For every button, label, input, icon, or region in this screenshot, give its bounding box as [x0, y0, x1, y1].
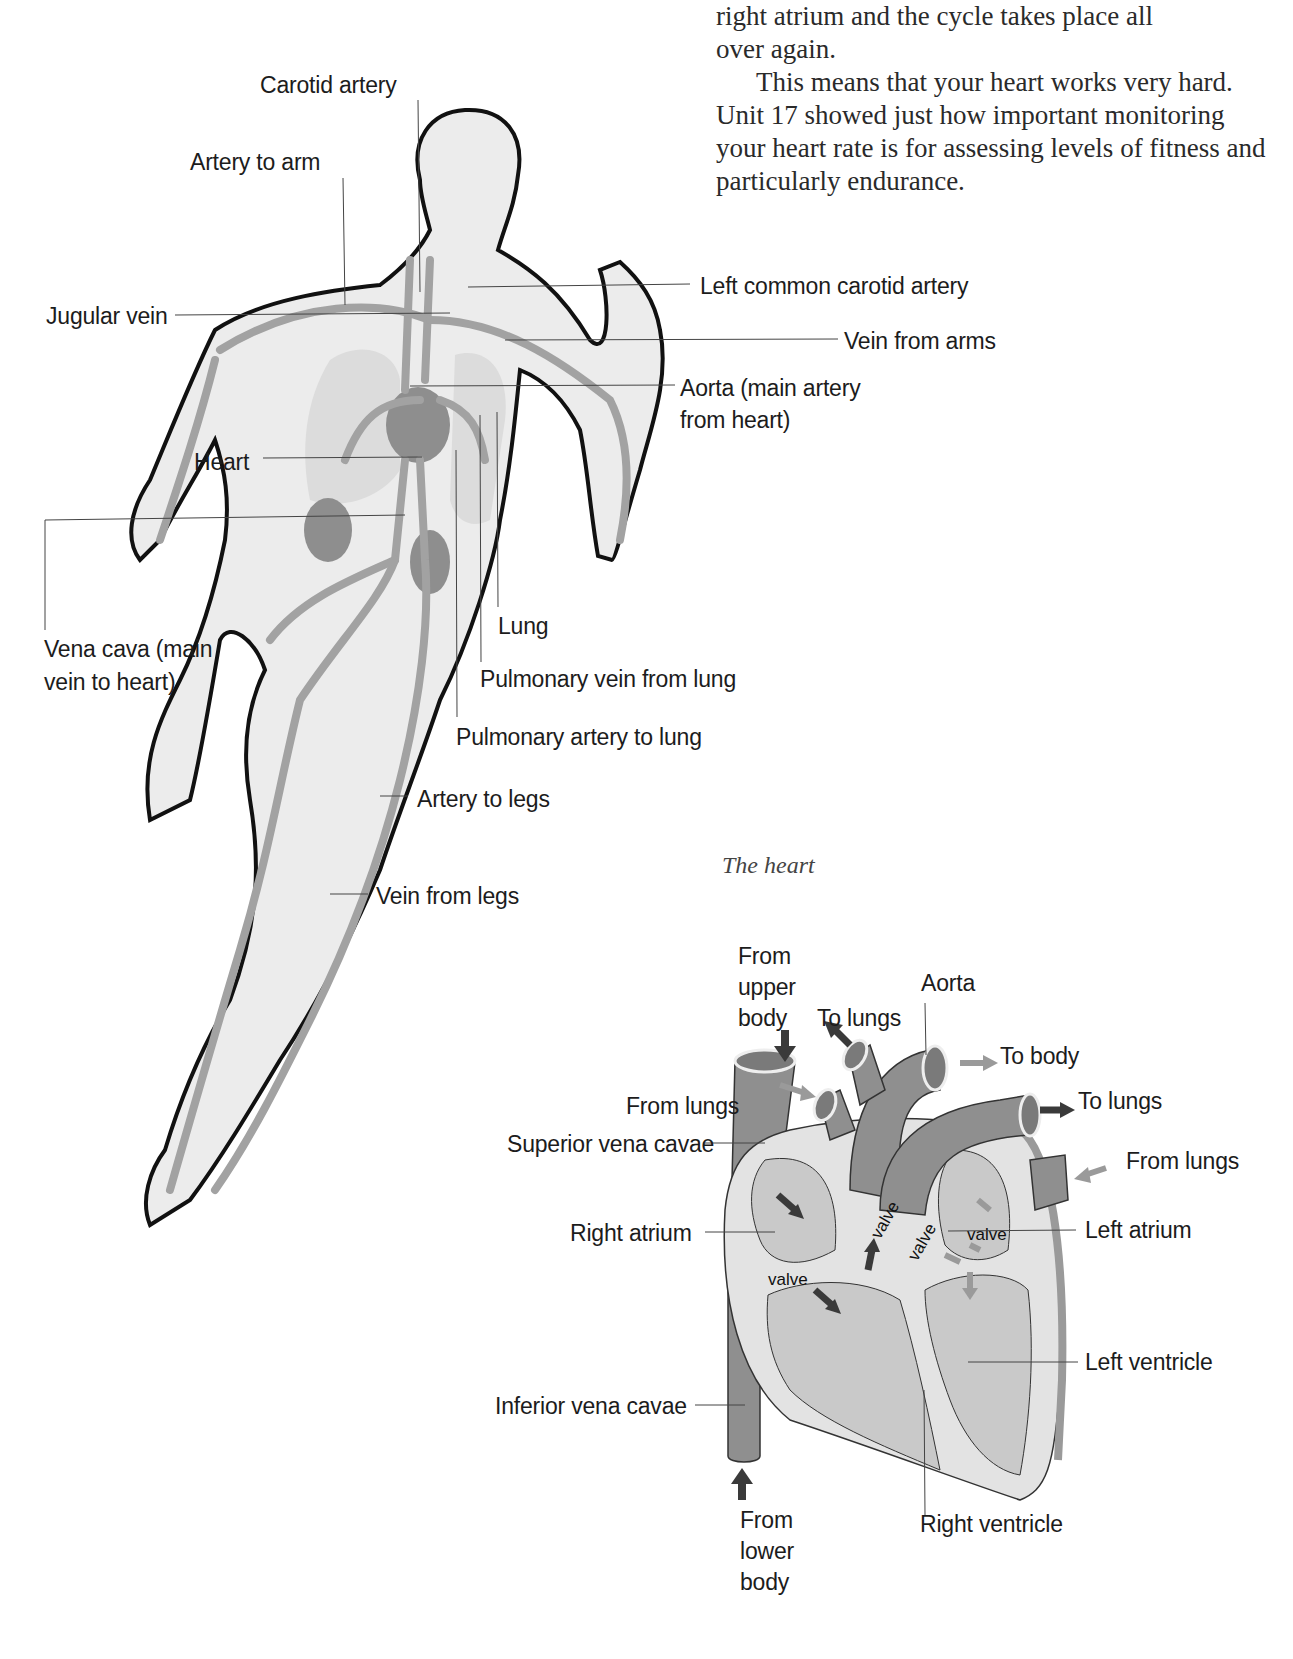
- label-from-lungs-left: From lungs: [626, 1090, 739, 1122]
- label-from-lower-body-1: From: [740, 1504, 793, 1536]
- label-from-lower-body-2: lower: [740, 1535, 794, 1567]
- valve-label-mitral: valve: [967, 1225, 1007, 1244]
- textbook-page: right atrium and the cycle takes place a…: [0, 0, 1293, 1659]
- label-artery-to-legs: Artery to legs: [417, 783, 550, 815]
- label-aorta-line2: from heart): [680, 404, 790, 436]
- label-aorta-line1: Aorta (main artery: [680, 372, 860, 404]
- label-from-lower-body-3: body: [740, 1566, 789, 1598]
- heart-figure-caption: The heart: [722, 852, 815, 879]
- label-from-upper-body-3: body: [738, 1002, 787, 1034]
- label-to-lungs-top: To lungs: [817, 1002, 901, 1034]
- label-left-common-carotid-artery: Left common carotid artery: [700, 270, 968, 302]
- label-carotid-artery: Carotid artery: [260, 69, 397, 101]
- label-heart: Heart: [194, 446, 249, 478]
- label-vein-from-legs: Vein from legs: [376, 880, 519, 912]
- label-to-body: To body: [1000, 1040, 1079, 1072]
- heart-cross-section: valve valve valve valve: [724, 1021, 1106, 1500]
- label-lung: Lung: [498, 610, 548, 642]
- label-vein-from-arms: Vein from arms: [844, 325, 996, 357]
- kidney-left: [304, 498, 352, 562]
- label-from-upper-body-1: From: [738, 940, 791, 972]
- label-superior-vena-cavae: Superior vena cavae: [507, 1128, 714, 1160]
- label-vena-cava-line2: vein to heart): [44, 666, 175, 698]
- label-pulmonary-artery: Pulmonary artery to lung: [456, 721, 702, 753]
- label-vena-cava-line1: Vena cava (main: [44, 633, 212, 665]
- valve-label-tricuspid: valve: [768, 1270, 808, 1289]
- label-to-lungs-right: To lungs: [1078, 1085, 1162, 1117]
- label-aorta: Aorta: [921, 967, 975, 999]
- label-inferior-vena-cavae: Inferior vena cavae: [495, 1390, 687, 1422]
- label-from-lungs-right: From lungs: [1126, 1145, 1239, 1177]
- label-pulmonary-vein: Pulmonary vein from lung: [480, 663, 736, 695]
- label-jugular-vein: Jugular vein: [46, 300, 168, 332]
- label-left-atrium: Left atrium: [1085, 1214, 1191, 1246]
- label-artery-to-arm: Artery to arm: [190, 146, 320, 178]
- label-from-upper-body-2: upper: [738, 971, 796, 1003]
- label-right-ventricle: Right ventricle: [920, 1508, 1063, 1540]
- label-right-atrium: Right atrium: [570, 1217, 692, 1249]
- label-left-ventricle: Left ventricle: [1085, 1346, 1213, 1378]
